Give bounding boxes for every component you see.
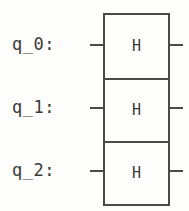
gate-box-h-q0[interactable]: H <box>105 15 168 78</box>
qubit-label-q2: q_2: <box>12 162 86 179</box>
wire-out-q2 <box>169 170 183 172</box>
qubit-label-q1: q_1: <box>12 99 86 116</box>
quantum-circuit-diagram: q_0: q_1: q_2: H H H <box>0 0 189 211</box>
gate-box-h-q1[interactable]: H <box>105 78 168 141</box>
wire-in-q2 <box>90 170 104 172</box>
wire-in-q0 <box>90 44 104 46</box>
wire-in-q1 <box>90 107 104 109</box>
qubit-label-q0: q_0: <box>12 36 86 53</box>
gate-label-h-q1: H <box>132 103 141 118</box>
gate-box-h-q2[interactable]: H <box>105 141 168 204</box>
gate-label-h-q2: H <box>132 166 141 181</box>
wire-out-q0 <box>169 44 183 46</box>
gate-column: H H H <box>103 13 170 206</box>
gate-label-h-q0: H <box>132 39 141 54</box>
wire-out-q1 <box>169 107 183 109</box>
